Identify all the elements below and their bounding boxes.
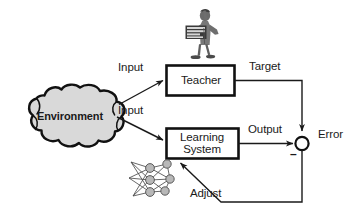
edge-label-target: Target: [249, 60, 280, 72]
learning-system-label-line2: System: [167, 143, 237, 155]
summing-junction-minus-sign: –: [290, 148, 297, 161]
environment-label: Environment: [26, 111, 114, 123]
edge-label-error: Error: [318, 128, 343, 140]
edge-input-to-teacher: [119, 81, 163, 105]
learning-system-label: Learning System: [167, 131, 237, 156]
edge-label-adjust: Adjust: [190, 187, 221, 199]
neural-network-icon: [129, 160, 174, 197]
edge-label-input-learning-system: Input: [118, 104, 143, 116]
person-with-book-icon: [186, 9, 219, 59]
edge-label-output: Output: [248, 123, 282, 135]
summing-junction-circle: [295, 137, 308, 150]
diagram-graphics: [0, 0, 361, 212]
edge-input-to-learning-system: [117, 117, 163, 140]
teacher-label: Teacher: [168, 74, 234, 86]
diagram-canvas: Environment Teacher Learning System Inpu…: [0, 0, 361, 212]
edge-label-input-teacher: Input: [118, 61, 143, 73]
learning-system-label-line1: Learning: [167, 131, 237, 143]
